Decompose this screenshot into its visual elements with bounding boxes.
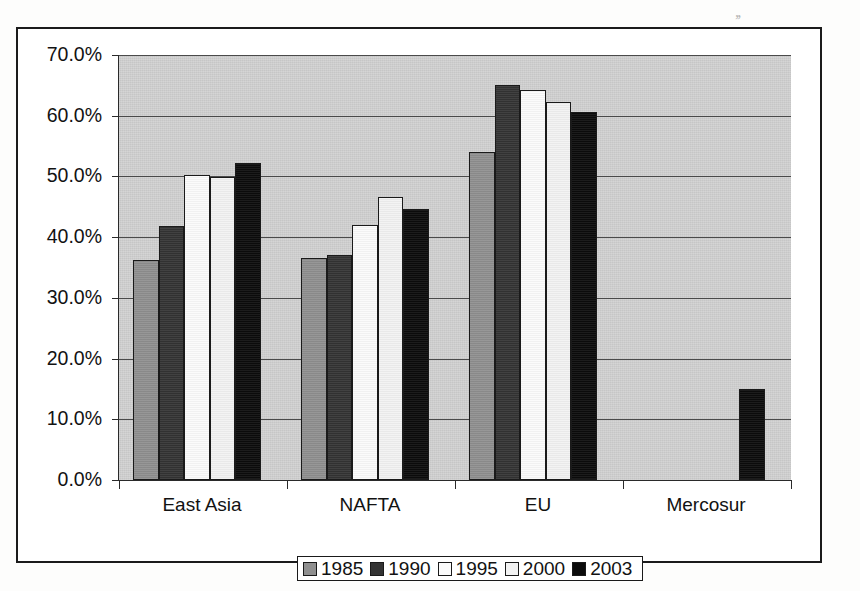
legend-entry-1995: 1995 xyxy=(438,559,503,578)
legend-label-1995: 1995 xyxy=(456,559,498,578)
y-axis-tick-label: 60.0% xyxy=(18,104,102,127)
chart-figure-frame: 70.0%60.0%50.0%40.0%30.0%20.0%10.0%0.0% … xyxy=(16,27,822,563)
y-axis-tick xyxy=(112,116,119,117)
legend-entry-2003: 2003 xyxy=(572,559,637,578)
legend-label-1985: 1985 xyxy=(321,559,363,578)
x-axis-tick xyxy=(119,480,120,489)
y-axis-tick-label: 40.0% xyxy=(18,225,102,248)
legend-swatch-1990 xyxy=(370,562,384,576)
y-axis-tick xyxy=(112,419,119,420)
x-axis-tick xyxy=(287,480,288,489)
x-axis-tick xyxy=(623,480,624,489)
y-axis-tick xyxy=(112,55,119,56)
bar-mercosur-2003 xyxy=(739,389,765,480)
y-axis-tick-label: 50.0% xyxy=(18,164,102,187)
legend-label-2003: 2003 xyxy=(590,559,632,578)
bar-nafta-1990 xyxy=(327,255,353,480)
bar-east-asia-2000 xyxy=(210,177,236,480)
y-axis-tick-label: 20.0% xyxy=(18,347,102,370)
y-axis-tick-label: 10.0% xyxy=(18,407,102,430)
y-axis-tick xyxy=(112,298,119,299)
bar-eu-1985 xyxy=(469,152,495,480)
x-axis-tick xyxy=(455,480,456,489)
y-axis-tick xyxy=(112,480,119,481)
y-axis-tick-label: 70.0% xyxy=(18,43,102,66)
chart-legend: 19851990199520002003 xyxy=(297,556,643,581)
legend-swatch-1985 xyxy=(303,562,317,576)
legend-entry-1985: 1985 xyxy=(303,559,368,578)
x-axis-label-east-asia: East Asia xyxy=(118,494,286,516)
bar-eu-1990 xyxy=(495,85,521,480)
legend-entry-2000: 2000 xyxy=(505,559,570,578)
y-axis-tick xyxy=(112,359,119,360)
scan-artifact-mark: ,, xyxy=(735,2,775,20)
legend-swatch-2003 xyxy=(572,562,586,576)
y-axis-tick xyxy=(112,237,119,238)
bar-east-asia-1985 xyxy=(133,260,159,480)
x-axis-tick xyxy=(791,480,792,489)
y-axis-tick-label: 0.0% xyxy=(18,468,102,491)
gridline xyxy=(119,55,791,56)
bar-eu-2000 xyxy=(546,102,572,480)
x-axis-label-eu: EU xyxy=(454,494,622,516)
bar-nafta-2000 xyxy=(378,197,404,480)
bar-nafta-1995 xyxy=(352,225,378,480)
legend-swatch-2000 xyxy=(505,562,519,576)
x-axis-label-nafta: NAFTA xyxy=(286,494,454,516)
legend-swatch-1995 xyxy=(438,562,452,576)
y-axis-tick xyxy=(112,176,119,177)
legend-label-1990: 1990 xyxy=(388,559,430,578)
bar-east-asia-2003 xyxy=(235,163,261,480)
y-axis-tick-label: 30.0% xyxy=(18,286,102,309)
bar-nafta-1985 xyxy=(301,258,327,480)
plot-area xyxy=(118,55,791,481)
bar-east-asia-1990 xyxy=(159,226,185,480)
gridline xyxy=(119,116,791,117)
bar-eu-2003 xyxy=(571,112,597,480)
bar-eu-1995 xyxy=(520,90,546,480)
bar-east-asia-1995 xyxy=(184,175,210,480)
bar-nafta-2003 xyxy=(403,209,429,480)
legend-label-2000: 2000 xyxy=(523,559,565,578)
legend-entry-1990: 1990 xyxy=(370,559,435,578)
x-axis-label-mercosur: Mercosur xyxy=(622,494,790,516)
